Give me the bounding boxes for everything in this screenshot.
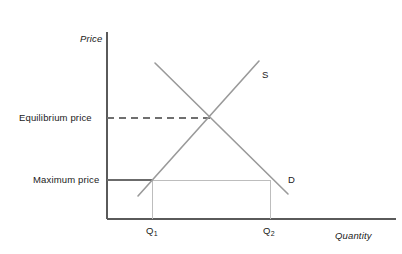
q1-subscript: 1	[154, 230, 158, 237]
supply-demand-chart: Price Quantity Equilibrium price Maximum…	[0, 0, 402, 254]
q2-tick-label: Q2	[263, 226, 275, 236]
x-axis-title: Quantity	[335, 231, 372, 241]
maximum-price-label: Maximum price	[33, 175, 99, 185]
q2-letter: Q	[263, 225, 271, 236]
q1-tick-label: Q1	[146, 226, 158, 236]
chart-canvas	[0, 0, 402, 254]
demand-curve	[155, 63, 288, 194]
equilibrium-price-label: Equilibrium price	[19, 113, 92, 123]
supply-curve	[138, 61, 259, 196]
q1-letter: Q	[146, 225, 154, 236]
supply-curve-label: S	[262, 70, 269, 80]
q2-subscript: 2	[271, 230, 275, 237]
y-axis-title: Price	[80, 34, 102, 44]
demand-curve-label: D	[288, 175, 295, 185]
